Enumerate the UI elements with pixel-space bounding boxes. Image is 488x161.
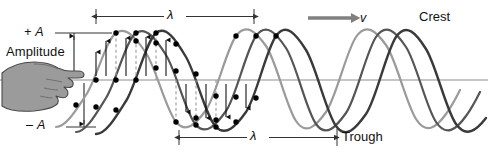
wavelength-measure-top <box>96 9 254 24</box>
amplitude-label: Amplitude <box>6 45 65 58</box>
wave-diagram: + A – A Amplitude λ λ v Crest Trough <box>0 0 488 161</box>
wavelength-measure-bottom <box>179 129 337 146</box>
trough-label: Trough <box>342 130 383 143</box>
displacement-arrows <box>96 37 246 118</box>
wavelength-bottom-label: λ <box>250 129 256 142</box>
wavelength-top-label: λ <box>167 8 173 21</box>
hand-icon <box>2 62 84 111</box>
wave-diagram-canvas <box>0 0 488 161</box>
crest-label: Crest <box>419 10 450 23</box>
velocity-label: v <box>360 12 366 25</box>
positive-amplitude-label: + A <box>24 26 44 39</box>
negative-amplitude-label: – A <box>26 119 46 132</box>
wave-curve-latest <box>96 30 486 134</box>
